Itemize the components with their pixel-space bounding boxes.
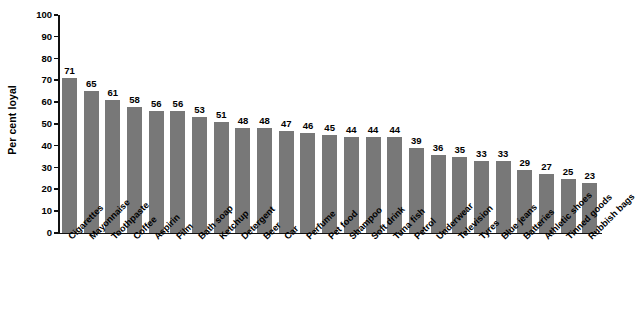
bar-value-label: 56 xyxy=(147,98,166,109)
bar-group[interactable]: 65 xyxy=(82,15,104,233)
bar[interactable] xyxy=(300,133,315,233)
y-axis-tick-label: 50 xyxy=(41,117,52,131)
x-axis-category: Tyres xyxy=(472,236,494,313)
bar[interactable] xyxy=(192,117,207,233)
x-axis-category: Perfume xyxy=(298,236,320,313)
x-axis-category: Tuna fish xyxy=(385,236,407,313)
y-axis-tick-label: 90 xyxy=(41,30,52,44)
x-axis-category: Toothpaste xyxy=(103,236,125,313)
x-axis-category: Rubbish bags xyxy=(580,236,602,313)
bar-value-label: 65 xyxy=(82,78,101,89)
x-axis-category: Car xyxy=(277,236,299,313)
bar-value-label: 44 xyxy=(364,124,383,135)
bar-group[interactable]: 45 xyxy=(320,15,342,233)
x-axis-category: Coffee xyxy=(125,236,147,313)
x-axis-category: Beer xyxy=(255,236,277,313)
bar[interactable] xyxy=(279,131,294,233)
y-axis-tick-label: 30 xyxy=(41,161,52,175)
y-axis-tick-label: 10 xyxy=(41,204,52,218)
bar-value-label: 48 xyxy=(233,115,252,126)
bar-value-label: 44 xyxy=(385,124,404,135)
bar-value-label: 33 xyxy=(494,148,513,159)
bar-group[interactable]: 44 xyxy=(364,15,386,233)
bar-group[interactable]: 47 xyxy=(277,15,299,233)
bar-value-label: 56 xyxy=(168,98,187,109)
bar-value-label: 58 xyxy=(125,94,144,105)
bar-value-label: 71 xyxy=(60,65,79,76)
bar-group[interactable]: 48 xyxy=(233,15,255,233)
bar-value-label: 51 xyxy=(212,109,231,120)
bar-value-label: 45 xyxy=(320,122,339,133)
x-axis-category: Underwear xyxy=(429,236,451,313)
bar-group[interactable]: 48 xyxy=(255,15,277,233)
bar-group[interactable]: 39 xyxy=(407,15,429,233)
x-axis-category: Cigarettes xyxy=(60,236,82,313)
x-axis-category: Pet food xyxy=(320,236,342,313)
y-axis-tick-label: 100 xyxy=(36,8,52,22)
bar-group[interactable]: 44 xyxy=(342,15,364,233)
bar-value-label: 23 xyxy=(580,170,599,181)
y-axis-tick-label: 20 xyxy=(41,182,52,196)
bar-group[interactable]: 56 xyxy=(147,15,169,233)
bar-group[interactable]: 33 xyxy=(494,15,516,233)
x-axis-category: Ketchup xyxy=(212,236,234,313)
x-axis-category: Tinned goods xyxy=(559,236,581,313)
y-axis-title: Per cent loyal xyxy=(0,0,24,240)
x-axis-category: Batteries xyxy=(515,236,537,313)
bar-value-label: 39 xyxy=(407,135,426,146)
x-axis-category: Detergent xyxy=(233,236,255,313)
bar-value-label: 33 xyxy=(472,148,491,159)
y-axis-tick-label: 60 xyxy=(41,95,52,109)
bar-group[interactable]: 56 xyxy=(168,15,190,233)
bar-value-label: 61 xyxy=(103,87,122,98)
x-axis-category: Athletic shoes xyxy=(537,236,559,313)
bar-value-label: 44 xyxy=(342,124,361,135)
bar-group[interactable]: 51 xyxy=(212,15,234,233)
bar-value-label: 53 xyxy=(190,104,209,115)
bar-group[interactable]: 33 xyxy=(472,15,494,233)
bar-value-label: 35 xyxy=(450,144,469,155)
x-axis-category: Bath soap xyxy=(190,236,212,313)
bar-value-label: 46 xyxy=(298,120,317,131)
bar-group[interactable]: 71 xyxy=(60,15,82,233)
y-axis-title-label: Per cent loyal xyxy=(6,85,18,155)
bar-group[interactable]: 53 xyxy=(190,15,212,233)
x-axis-category: Petrol xyxy=(407,236,429,313)
y-axis-tick-label: 70 xyxy=(41,73,52,87)
bar-value-label: 47 xyxy=(277,118,296,129)
y-axis-tick-label: 80 xyxy=(41,52,52,66)
y-axis-ticks: 1009080706050403020100 xyxy=(24,15,58,233)
bar-value-label: 29 xyxy=(515,157,534,168)
bar-group[interactable]: 27 xyxy=(537,15,559,233)
x-axis-category: Aspirin xyxy=(147,236,169,313)
x-axis-category: Blue jeans xyxy=(494,236,516,313)
x-axis-category: Soft drink xyxy=(364,236,386,313)
x-axis-category: Television xyxy=(450,236,472,313)
y-axis-tick-label: 40 xyxy=(41,139,52,153)
x-axis-category: Film xyxy=(168,236,190,313)
bar-group[interactable]: 44 xyxy=(385,15,407,233)
y-axis-tick-label: 0 xyxy=(47,226,52,240)
bar-value-label: 36 xyxy=(429,142,448,153)
bar-group[interactable]: 36 xyxy=(429,15,451,233)
bar-group[interactable]: 46 xyxy=(298,15,320,233)
bar-value-label: 27 xyxy=(537,161,556,172)
x-axis-category: Shampoo xyxy=(342,236,364,313)
bar-value-label: 48 xyxy=(255,115,274,126)
bar[interactable] xyxy=(62,78,77,233)
bar-value-label: 25 xyxy=(559,166,578,177)
x-axis-category-labels: CigarettesMayonnaiseToothpasteCoffeeAspi… xyxy=(60,236,602,313)
plot-area: 7165615856565351484847464544444439363533… xyxy=(60,15,602,233)
bar-group[interactable]: 29 xyxy=(515,15,537,233)
x-axis-category: Mayonnaise xyxy=(82,236,104,313)
